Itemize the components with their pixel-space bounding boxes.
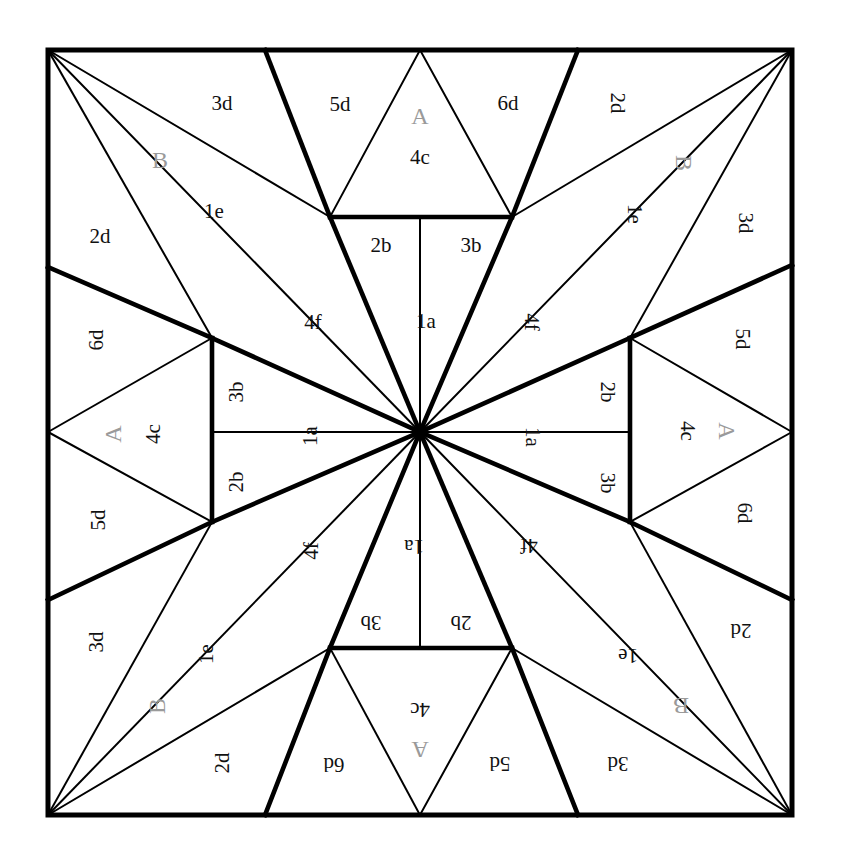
cell-label-b-5d: 5d [490, 753, 511, 774]
cell-label-r-5d: 5d [732, 329, 753, 350]
cell-label-r-1e: 1e [624, 204, 645, 224]
cell-label-t-5d: 5d [330, 94, 351, 115]
cell-label-t-2b: 2b [371, 235, 392, 256]
cell-label-l-4f: 4f [301, 542, 322, 560]
diagram-canvas: 3dB1e2d5dA4c6d2b3b1a4f2dB1e3d5dA4c6d2b3b… [0, 0, 841, 863]
cell-label-r-6d: 6d [734, 503, 755, 524]
cell-label-b-2b: 2b [451, 612, 472, 633]
cell-label-l-2d: 2d [212, 753, 233, 774]
cell-label-r-2b: 2b [597, 382, 618, 403]
cell-label-t-A: A [411, 104, 428, 128]
cell-label-l-B: B [145, 698, 169, 714]
cell-label-t-4f: 4f [304, 312, 322, 333]
cell-label-l-A: A [101, 425, 125, 442]
cell-label-b-A: A [411, 738, 428, 762]
cell-label-b-1a: 1a [404, 536, 424, 557]
cell-label-l-6d: 6d [86, 330, 107, 351]
cell-label-t-2d: 2d [90, 226, 111, 247]
cell-label-r-B: B [672, 155, 696, 171]
cell-label-r-3d: 3d [735, 213, 756, 234]
cell-label-b-3b: 3b [361, 612, 382, 633]
cell-label-t-B: B [152, 148, 168, 172]
cell-label-t-3d: 3d [212, 93, 233, 114]
cell-label-b-3d: 3d [608, 753, 629, 774]
cell-label-b-1e: 1e [618, 645, 638, 666]
cell-label-r-A: A [715, 422, 739, 439]
cell-label-t-1e: 1e [204, 201, 224, 222]
cell-label-t-3b: 3b [461, 235, 482, 256]
cell-label-r-1a: 1a [522, 427, 543, 447]
cell-label-b-6d: 6d [324, 754, 345, 775]
cell-label-l-3b: 3b [226, 382, 247, 403]
cell-label-b-B: B [673, 694, 689, 718]
cell-label-l-5d: 5d [88, 510, 109, 531]
cell-label-t-6d: 6d [498, 93, 519, 114]
cell-label-l-1a: 1a [300, 426, 321, 446]
cell-label-b-2d: 2d [731, 620, 752, 641]
cell-label-r-4f: 4f [521, 313, 542, 331]
cell-label-r-3b: 3b [597, 473, 618, 494]
cell-label-l-3d: 3d [86, 632, 107, 653]
cell-label-r-4c: 4c [677, 421, 698, 441]
cell-label-l-4c: 4c [143, 424, 164, 444]
cell-label-t-1a: 1a [416, 311, 436, 332]
cell-label-b-4f: 4f [520, 535, 538, 556]
cell-label-t-4c: 4c [410, 147, 430, 168]
cell-label-r-2d: 2d [607, 93, 628, 114]
cell-label-l-2b: 2b [226, 472, 247, 493]
cell-label-l-1e: 1e [196, 644, 217, 664]
cell-label-b-4c: 4c [410, 699, 430, 720]
